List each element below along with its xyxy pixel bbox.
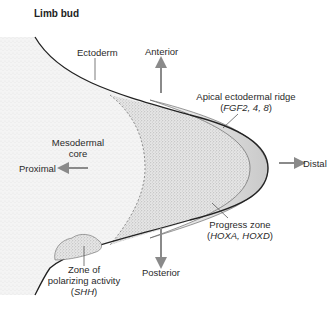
ectoderm-label: Ectoderm (77, 47, 118, 58)
zpa-genes: SHH (74, 286, 94, 297)
mesodermal-core-label-line1: Mesodermal (52, 137, 104, 148)
progress-zone-label-line1: Progress zone (209, 219, 270, 230)
aer-label-line1: Apical ectodermal ridge (196, 91, 295, 102)
limb-bud-diagram: Limb bud Ectoderm Anterior Apical ectode… (0, 0, 327, 311)
zpa-label-line1: Zone of (68, 264, 101, 275)
zpa-label-line2: polarizing activity (48, 275, 121, 286)
progress-zone-label-line2: (HOXA, HOXD) (207, 230, 273, 241)
mesodermal-core-label-line2: core (69, 148, 87, 159)
aer-genes: FGF2, 4, 8 (223, 102, 269, 113)
aer-label-line2: (FGF2, 4, 8) (220, 102, 272, 113)
aer-leader-line (223, 114, 238, 128)
zpa-label-line3: (SHH) (71, 286, 97, 297)
distal-label: Distal (303, 158, 327, 169)
diagram-title: Limb bud (34, 8, 79, 19)
posterior-label: Posterior (142, 267, 180, 278)
progress-zone-genes: HOXA, HOXD (210, 230, 270, 241)
anterior-label: Anterior (145, 46, 178, 57)
proximal-label: Proximal (19, 163, 56, 174)
